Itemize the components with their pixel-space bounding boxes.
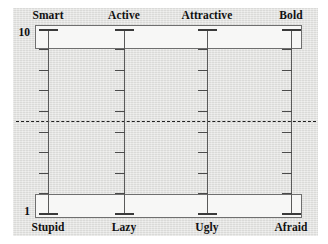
scale-tick-2 xyxy=(282,193,292,194)
scale-tick-6 xyxy=(198,111,208,112)
anchor-box-bottom xyxy=(35,194,302,218)
scale-tick-6 xyxy=(282,111,292,112)
scale-spine xyxy=(48,29,49,214)
anchor-box-top xyxy=(35,25,302,49)
scale-tick-1 xyxy=(39,213,58,215)
pole-label-positive-smart: Smart xyxy=(32,9,63,21)
scale-tick-9 xyxy=(39,49,49,50)
scale-tick-10 xyxy=(39,29,58,31)
scale-tick-3 xyxy=(115,173,125,174)
scale-tick-1 xyxy=(198,213,217,215)
pole-label-negative-ugly: Ugly xyxy=(195,221,218,233)
scale-tick-8 xyxy=(282,70,292,71)
scale-tick-4 xyxy=(39,152,49,153)
scale-tick-10 xyxy=(282,29,301,31)
scale-tick-7 xyxy=(198,90,208,91)
scale-tick-9 xyxy=(115,49,125,50)
scale-tick-7 xyxy=(39,90,49,91)
scale-tick-5 xyxy=(115,132,125,133)
scale-tick-5 xyxy=(198,132,208,133)
scale-tick-2 xyxy=(39,193,49,194)
semantic-differential-figure: 10 1 Smart Stupid Active Lazy xyxy=(0,0,328,244)
scale-tick-1 xyxy=(282,213,301,215)
scale-tick-10 xyxy=(198,29,217,31)
scale-tick-6 xyxy=(115,111,125,112)
pole-label-positive-attractive: Attractive xyxy=(182,9,233,21)
scale-endpoint-max: 10 xyxy=(19,26,31,38)
scale-spine xyxy=(124,29,125,214)
pole-label-positive-active: Active xyxy=(108,9,140,21)
scale-tick-3 xyxy=(198,173,208,174)
scale-tick-8 xyxy=(115,70,125,71)
scale-tick-7 xyxy=(115,90,125,91)
scale-tick-4 xyxy=(198,152,208,153)
scale-spine xyxy=(291,29,292,214)
pole-label-negative-stupid: Stupid xyxy=(31,221,64,233)
pole-label-negative-afraid: Afraid xyxy=(274,221,307,233)
scale-tick-5 xyxy=(39,132,49,133)
pole-label-positive-bold: Bold xyxy=(279,9,302,21)
scale-tick-6 xyxy=(39,111,49,112)
scale-tick-2 xyxy=(115,193,125,194)
scale-tick-5 xyxy=(282,132,292,133)
scale-tick-10 xyxy=(115,29,134,31)
scale-tick-9 xyxy=(282,49,292,50)
scale-tick-4 xyxy=(282,152,292,153)
scale-tick-3 xyxy=(282,173,292,174)
scale-tick-2 xyxy=(198,193,208,194)
scale-tick-1 xyxy=(115,213,134,215)
scale-endpoint-min: 1 xyxy=(24,205,30,217)
scale-tick-7 xyxy=(282,90,292,91)
scale-tick-8 xyxy=(39,70,49,71)
pole-label-negative-lazy: Lazy xyxy=(112,221,137,233)
midline-reference xyxy=(16,121,316,122)
scale-tick-8 xyxy=(198,70,208,71)
scale-tick-9 xyxy=(198,49,208,50)
scale-tick-3 xyxy=(39,173,49,174)
scale-tick-4 xyxy=(115,152,125,153)
scale-spine xyxy=(207,29,208,214)
